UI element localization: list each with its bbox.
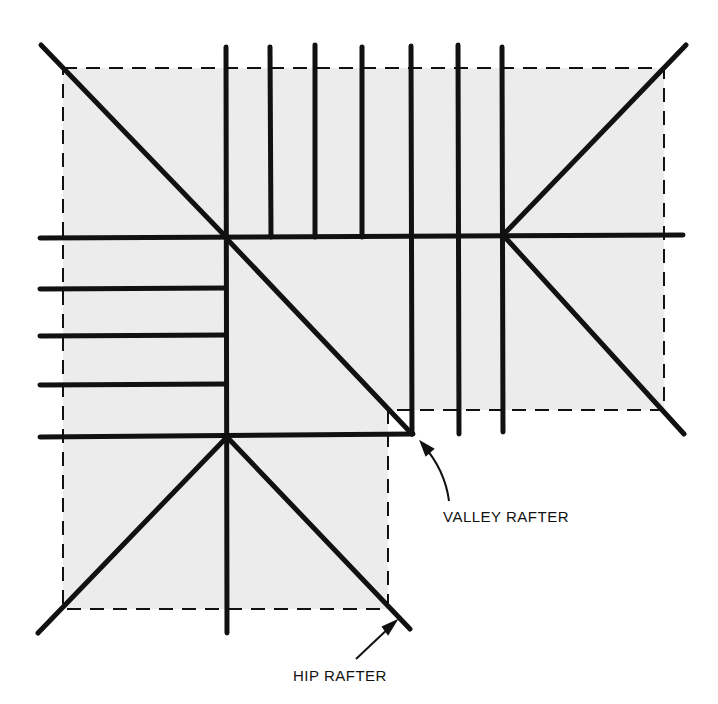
- common-rafter: [502, 47, 503, 432]
- jack-rafter: [40, 384, 226, 385]
- hip-rafter-label: HIP RAFTER: [293, 667, 387, 684]
- jack-rafter: [40, 288, 226, 289]
- roof-framing-diagram: VALLEY RAFTER HIP RAFTER: [0, 0, 718, 704]
- valley-arrowhead-icon: [421, 442, 433, 455]
- common-rafter: [270, 47, 271, 237]
- framing-drawing: [0, 0, 718, 704]
- common-rafter: [411, 46, 412, 434]
- common-rafter: [458, 45, 459, 434]
- common-rafter: [226, 47, 227, 633]
- valley-rafter-label: VALLEY RAFTER: [443, 508, 569, 525]
- jack-rafter: [40, 335, 226, 336]
